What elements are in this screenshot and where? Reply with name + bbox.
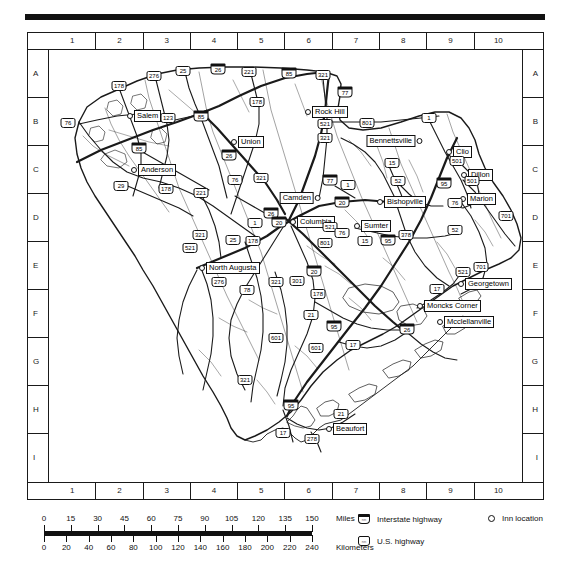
interstate-shield-26[interactable]: 26 [211, 64, 226, 75]
us-highway-shield-29[interactable]: 29 [114, 181, 129, 191]
grid-column-label-7: 7 [333, 483, 380, 499]
scale-label-kilometers: 120 [171, 543, 184, 552]
interstate-shield-77[interactable]: 77 [323, 175, 338, 186]
us-highway-shield-76[interactable]: 76 [61, 118, 76, 128]
us-highway-shield-17[interactable]: 17 [346, 340, 361, 350]
city-marker-salem[interactable]: Salem [127, 110, 161, 122]
scale-label-miles: 0 [42, 514, 46, 523]
interstate-shield-95[interactable]: 95 [381, 235, 396, 246]
grid-column-label-9: 9 [427, 33, 474, 49]
us-highway-shield-501[interactable]: 501 [465, 176, 480, 186]
city-label: North Augusta [206, 262, 260, 274]
city-marker-bishopville[interactable]: Bishopville [377, 196, 426, 208]
us-highway-shield-178[interactable]: 178 [311, 289, 326, 299]
us-highway-shield-378[interactable]: 378 [399, 230, 414, 240]
city-label: Georgetown [465, 278, 512, 290]
us-highway-shield-221[interactable]: 221 [194, 188, 209, 198]
interstate-shield-85[interactable]: 85 [194, 111, 209, 122]
us-highway-shield-321[interactable]: 321 [193, 230, 208, 240]
city-marker-bennettsville[interactable]: Bennettsville [366, 135, 422, 147]
us-highway-shield-52[interactable]: 52 [391, 176, 406, 186]
interstate-shield-20[interactable]: 20 [335, 197, 350, 208]
city-marker-mcclellanville[interactable]: Mcclellanville [437, 316, 494, 328]
interstate-shield-20[interactable]: 20 [272, 217, 287, 228]
us-highway-shield-601[interactable]: 601 [269, 333, 284, 343]
us-highway-shield-221[interactable]: 221 [242, 67, 257, 77]
us-highway-shield-178[interactable]: 178 [112, 81, 127, 91]
us-highway-shield-15[interactable]: 15 [385, 158, 400, 168]
us-highway-shield-21[interactable]: 21 [304, 310, 319, 320]
city-marker-anderson[interactable]: Anderson [131, 164, 176, 176]
us-highway-shield-801[interactable]: 801 [318, 238, 333, 248]
us-highway-shield-601[interactable]: 601 [309, 343, 324, 353]
inn-location-dot-icon [377, 199, 383, 205]
us-highway-shield-321[interactable]: 321 [238, 375, 253, 385]
us-highway-shield-321[interactable]: 321 [269, 277, 284, 287]
legend-item-us-highway: nn U.S. highway [358, 536, 424, 546]
grid-row-label-I: I [523, 434, 543, 482]
us-highway-shield-501[interactable]: 501 [450, 156, 465, 166]
interstate-shield-95[interactable]: 95 [437, 178, 452, 189]
city-label: Bishopville [384, 196, 426, 208]
us-highway-shield-15[interactable]: 15 [358, 236, 373, 246]
interstate-shield-85[interactable]: 85 [132, 143, 147, 154]
city-marker-sumter[interactable]: Sumter [354, 220, 391, 232]
us-highway-shield-521[interactable]: 521 [318, 119, 333, 129]
us-highway-shield-25[interactable]: 25 [176, 66, 191, 76]
us-highway-shield-25[interactable]: 25 [226, 235, 241, 245]
row-labels-left: ABCDEFGHI [28, 50, 49, 482]
interstate-shield-26[interactable]: 26 [400, 324, 415, 335]
us-highway-shield-17[interactable]: 17 [430, 284, 445, 294]
us-highway-shield-76[interactable]: 76 [228, 175, 243, 185]
us-highway-shield-276[interactable]: 276 [212, 277, 227, 287]
interstate-shield-77[interactable]: 77 [338, 87, 353, 98]
grid-row-label-B: B [523, 98, 543, 146]
us-highway-shield-1[interactable]: 1 [248, 218, 263, 228]
us-highway-shield-21[interactable]: 21 [334, 409, 349, 419]
us-highway-shield-278[interactable]: 278 [305, 434, 320, 444]
city-marker-georgetown[interactable]: Georgetown [458, 278, 512, 290]
us-highway-shield-801[interactable]: 801 [360, 118, 375, 128]
us-highway-shield-701[interactable]: 701 [474, 262, 489, 272]
us-highway-shield-76[interactable]: 76 [335, 228, 350, 238]
interstate-shield-95[interactable]: 95 [327, 321, 342, 332]
us-highway-shield-321[interactable]: 321 [316, 70, 331, 80]
interstate-shield-95[interactable]: 95 [284, 400, 299, 411]
city-marker-marion[interactable]: Marion [460, 193, 496, 205]
inn-location-dot-icon [458, 281, 464, 287]
map-canvas[interactable]: SalemAndersonUnionRock HillBennettsville… [49, 50, 522, 482]
scale-label-kilometers: 160 [216, 543, 229, 552]
interstate-shield-26[interactable]: 26 [222, 150, 237, 161]
us-highway-shield-178[interactable]: 178 [159, 184, 174, 194]
scale-tick-kilometers [178, 535, 179, 542]
us-highway-shield-321[interactable]: 321 [318, 133, 333, 143]
city-marker-beaufort[interactable]: Beaufort [326, 423, 367, 435]
city-marker-camden[interactable]: Camden [280, 192, 321, 204]
us-highway-shield-76[interactable]: 76 [448, 198, 463, 208]
us-highway-shield-178[interactable]: 178 [246, 236, 261, 246]
us-highway-shield-276[interactable]: 276 [147, 71, 162, 81]
us-highway-shield-301[interactable]: 301 [290, 276, 305, 286]
us-highway-shield-178[interactable]: 178 [250, 97, 265, 107]
us-highway-shield-321[interactable]: 321 [254, 173, 269, 183]
city-marker-rock-hill[interactable]: Rock Hill [305, 106, 348, 118]
grid-column-label-1: 1 [49, 483, 96, 499]
interstate-shield-20[interactable]: 20 [307, 266, 322, 277]
us-highway-shield-701[interactable]: 701 [499, 211, 514, 221]
city-marker-moncks-corner[interactable]: Moncks Corner [417, 300, 481, 312]
us-highway-shield-521[interactable]: 521 [183, 243, 198, 253]
grid-row-label-A: A [28, 50, 48, 98]
us-highway-shield-17[interactable]: 17 [276, 428, 291, 438]
city-marker-union[interactable]: Union [231, 136, 264, 148]
us-highway-shield-52[interactable]: 52 [448, 225, 463, 235]
us-highway-shield-1[interactable]: 1 [341, 180, 356, 190]
city-marker-north-augusta[interactable]: North Augusta [199, 262, 260, 274]
scale-label-miles: 60 [147, 514, 156, 523]
us-highway-shield-78[interactable]: 78 [240, 285, 255, 295]
scale-label-kilometers: 80 [129, 543, 138, 552]
us-highway-shield-521[interactable]: 521 [456, 267, 471, 277]
interstate-shield-85[interactable]: 85 [282, 68, 297, 79]
us-highway-shield-123[interactable]: 123 [161, 113, 176, 123]
grid-column-label-8: 8 [380, 33, 427, 49]
us-highway-shield-1[interactable]: 1 [422, 113, 437, 123]
